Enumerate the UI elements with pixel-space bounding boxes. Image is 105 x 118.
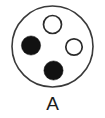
filled-circle-bottom bbox=[44, 61, 63, 80]
open-circle-top bbox=[44, 16, 62, 34]
circle-diagram bbox=[0, 0, 105, 96]
open-circle-right bbox=[66, 39, 82, 55]
filled-circle-left bbox=[21, 36, 40, 55]
figure-panel: A bbox=[0, 0, 105, 118]
figure-caption: A bbox=[0, 93, 105, 115]
